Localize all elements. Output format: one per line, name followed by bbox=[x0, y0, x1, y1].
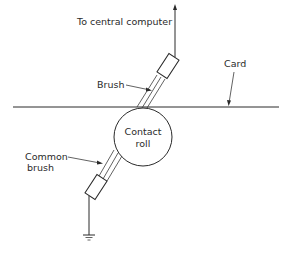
card-leader bbox=[229, 72, 234, 103]
arrow-up-icon bbox=[173, 4, 177, 10]
card-arrow-icon bbox=[227, 100, 231, 106]
common-brush bbox=[85, 150, 122, 199]
common-brush-label-line1: Common bbox=[25, 151, 68, 162]
brush-label: Brush bbox=[97, 79, 124, 90]
common-brush-leader bbox=[68, 157, 100, 163]
contact-roll-label-line1: Contact bbox=[125, 126, 162, 137]
contact-roll-diagram: Contact roll To central computer Brush C… bbox=[0, 0, 292, 253]
to-computer-label: To central computer bbox=[76, 16, 172, 27]
top-brush bbox=[137, 54, 179, 108]
contact-roll-label-line2: roll bbox=[136, 138, 151, 149]
ground-icon bbox=[83, 235, 95, 240]
common-brush-arrow-icon bbox=[97, 161, 103, 165]
common-brush-label-line2: brush bbox=[27, 162, 54, 173]
contact-roll bbox=[114, 108, 172, 166]
card-label: Card bbox=[224, 58, 246, 69]
top-brush-holder bbox=[157, 54, 179, 79]
